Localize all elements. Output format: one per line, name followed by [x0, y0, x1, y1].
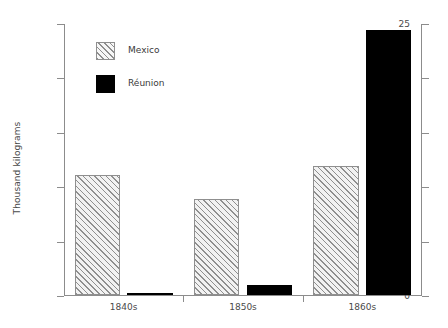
y-axis-tick-right — [422, 242, 429, 243]
x-axis-label-1850s: 1850s — [229, 302, 257, 312]
y-axis-tick-right — [422, 296, 429, 297]
y-axis-line-left — [64, 24, 65, 296]
legend-swatch-reunion-icon — [96, 75, 115, 93]
y-axis-tick — [57, 24, 64, 25]
y-axis-line-right — [421, 24, 422, 296]
y-axis-tick — [57, 133, 64, 134]
bar-runion-1850s — [247, 285, 292, 295]
x-axis-label-1860s: 1860s — [349, 302, 377, 312]
y-axis-tick-right — [422, 78, 429, 79]
y-axis-tick-label: 25 — [399, 19, 410, 29]
legend-label-mexico: Mexico — [128, 45, 159, 55]
bar-mexico-1850s — [194, 199, 239, 295]
bar-mexico-1860s — [313, 166, 358, 295]
bar-mexico-1840s — [75, 175, 120, 295]
x-axis-group-separator-tick — [183, 295, 184, 302]
y-axis-title: Thousand kilograms — [12, 32, 28, 304]
plot-area: 0510152025 — [64, 24, 422, 296]
y-axis-tick-right — [422, 187, 429, 188]
bar-runion-1860s — [366, 30, 411, 295]
y-axis-tick — [57, 187, 64, 188]
bar-runion-1840s — [127, 293, 172, 295]
bar-chart: Thousand kilograms 0510152025 1840s1850s… — [0, 0, 448, 328]
x-axis-label-1840s: 1840s — [110, 302, 138, 312]
y-axis-tick — [57, 296, 64, 297]
y-axis-tick — [57, 78, 64, 79]
y-axis-tick — [57, 242, 64, 243]
legend-label-reunion: Réunion — [128, 78, 165, 88]
legend-swatch-mexico-icon — [96, 42, 115, 60]
x-axis-group-separator-tick — [303, 295, 304, 302]
x-axis-line — [64, 295, 422, 296]
y-axis-tick-right — [422, 133, 429, 134]
y-axis-tick-right — [422, 24, 429, 25]
